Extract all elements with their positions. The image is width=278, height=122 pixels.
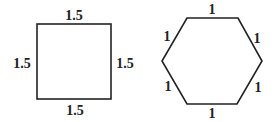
hexagon-top-label: 1: [209, 2, 216, 17]
hexagon-upper-left-label: 1: [164, 29, 171, 44]
figure-canvas: 1.5 1.5 1.5 1.5 1 1 1 1 1 1: [0, 0, 278, 122]
square-outline: [37, 24, 111, 99]
square-right-label: 1.5: [116, 56, 134, 71]
hexagon-outline: [162, 18, 262, 104]
hexagon-lower-right-label: 1: [255, 80, 262, 95]
square-left-label: 1.5: [13, 56, 31, 71]
hexagon-upper-right-label: 1: [254, 31, 261, 46]
hexagon-lower-left-label: 1: [165, 79, 172, 94]
square-bottom-label: 1.5: [66, 103, 84, 118]
hexagon-bottom-label: 1: [209, 106, 216, 121]
hexagon-figure: 1 1 1 1 1 1: [162, 2, 262, 121]
square-top-label: 1.5: [65, 8, 83, 23]
square-figure: 1.5 1.5 1.5 1.5: [13, 8, 134, 118]
shapes-diagram: 1.5 1.5 1.5 1.5 1 1 1 1 1 1: [0, 0, 278, 122]
